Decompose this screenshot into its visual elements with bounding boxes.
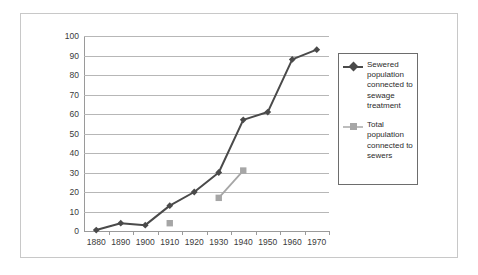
plot-wrapper: 0102030405060708090100 18801890190019101…	[84, 36, 329, 231]
chart-card: 0102030405060708090100 18801890190019101…	[20, 13, 458, 258]
data-point-marker	[216, 195, 222, 201]
legend-key-diamond-icon	[343, 61, 363, 72]
y-axis-tick-label: 80	[70, 71, 79, 80]
x-axis-tick-label: 1970	[307, 238, 326, 247]
y-axis-tick-label: 50	[70, 129, 79, 138]
series-1	[93, 46, 320, 233]
x-axis-tick-label: 1920	[185, 238, 204, 247]
x-axis-tick	[329, 231, 330, 235]
y-axis-tick-label: 70	[70, 90, 79, 99]
chart-screenshot: 0102030405060708090100 18801890190019101…	[0, 0, 478, 275]
y-axis-tick-label: 60	[70, 110, 79, 119]
y-axis-tick-label: 20	[70, 188, 79, 197]
legend-item-label: Total population connected to sewers	[367, 120, 413, 161]
series-line	[219, 171, 244, 198]
x-axis-tick	[207, 231, 208, 235]
series-line	[96, 50, 317, 230]
x-axis-tick	[280, 231, 281, 235]
data-point-marker	[93, 227, 100, 234]
y-axis-tick-label: 0	[74, 227, 79, 236]
x-axis-tick-label: 1910	[160, 238, 179, 247]
y-axis-tick-label: 90	[70, 51, 79, 60]
y-axis-tick-label: 100	[65, 32, 79, 41]
x-axis-tick	[133, 231, 134, 235]
x-axis-tick-label: 1950	[258, 238, 277, 247]
x-axis-tick-label: 1940	[234, 238, 253, 247]
y-axis-tick-label: 40	[70, 149, 79, 158]
data-point-marker	[167, 220, 173, 226]
x-axis-tick-label: 1890	[111, 238, 130, 247]
y-axis-tick-label: 10	[70, 207, 79, 216]
x-axis-tick-label: 1880	[87, 238, 106, 247]
legend-item-sewered-population[interactable]: Sewered population connected to sewage t…	[343, 60, 413, 111]
x-axis-tick	[182, 231, 183, 235]
legend-key-square-icon	[343, 121, 363, 132]
x-axis-tick	[109, 231, 110, 235]
legend-item-total-population[interactable]: Total population connected to sewers	[343, 120, 413, 161]
series-2	[167, 167, 247, 226]
x-axis-tick-label: 1930	[209, 238, 228, 247]
y-axis-tick-label: 30	[70, 168, 79, 177]
x-axis-tick	[256, 231, 257, 235]
legend-item-label: Sewered population connected to sewage t…	[367, 60, 413, 111]
data-point-marker	[264, 109, 271, 116]
x-axis-tick	[305, 231, 306, 235]
data-point-marker	[117, 220, 124, 227]
x-axis-tick-label: 1900	[136, 238, 155, 247]
plot-area: 0102030405060708090100 18801890190019101…	[84, 36, 329, 231]
x-axis-tick-label: 1960	[283, 238, 302, 247]
data-point-marker	[240, 116, 247, 123]
data-point-marker	[313, 46, 320, 53]
x-axis-tick	[158, 231, 159, 235]
legend: Sewered population connected to sewage t…	[338, 53, 418, 185]
x-axis-tick	[231, 231, 232, 235]
data-series-layer	[84, 36, 329, 231]
data-point-marker	[240, 167, 246, 173]
data-point-marker	[289, 56, 296, 63]
